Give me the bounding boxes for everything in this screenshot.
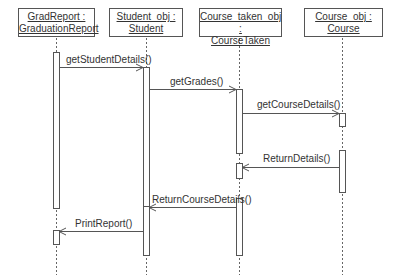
object-course: Course_obj : Course	[304, 8, 383, 37]
message-label-returncoursedetails: ReturnCourseDetails()	[152, 194, 251, 206]
object-class: Student	[110, 23, 182, 35]
object-student: Student_obj : Student	[109, 8, 183, 37]
object-name: GradReport :	[19, 11, 94, 23]
object-class: Course	[305, 23, 382, 35]
object-name: Course_taken_obj :	[200, 11, 281, 35]
object-class: CourseTaken	[200, 35, 281, 47]
message-label-getstudentdetails: getStudentDetails()	[66, 54, 152, 66]
object-class: GraduationReport	[19, 23, 94, 35]
activation-coursetaken-3	[237, 199, 243, 256]
activation-coursetaken-1	[237, 90, 243, 154]
diagram-lines	[0, 0, 397, 279]
activation-gradreport-1	[54, 53, 60, 209]
object-name: Student_obj :	[110, 11, 182, 23]
message-label-getcoursedetails: getCourseDetails()	[257, 99, 340, 111]
object-gradreport: GradReport : GraduationReport	[18, 8, 95, 37]
message-label-getgrades: getGrades()	[170, 76, 223, 88]
message-label-returndetails: ReturnDetails()	[263, 153, 330, 165]
activation-coursetaken-2	[237, 164, 243, 179]
activation-course-2	[340, 151, 346, 193]
sequence-diagram: GradReport : GraduationReport Student_ob…	[0, 0, 397, 279]
activation-student-2	[144, 207, 150, 256]
activation-gradreport-2	[54, 231, 60, 245]
object-name: Course_obj :	[305, 11, 382, 23]
message-label-printreport: PrintReport()	[75, 218, 132, 230]
object-coursetaken: Course_taken_obj : CourseTaken	[199, 8, 282, 37]
activation-course-1	[340, 114, 346, 127]
